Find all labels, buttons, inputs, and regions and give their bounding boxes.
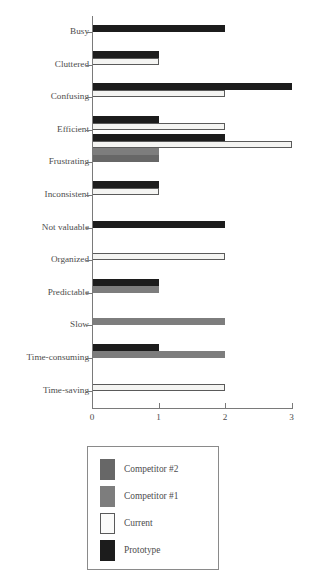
bar-comp1 [92,318,225,325]
legend-label: Competitor #2 [124,464,178,474]
bar-comp1 [92,148,159,155]
bar-current [92,90,225,97]
bar-current [92,141,292,148]
category-label: Organized [3,254,89,264]
x-tick-label: 1 [149,412,169,422]
legend-swatch [100,540,115,561]
plot-area: BusyClutteredConfusingEfficientFrustrati… [0,0,311,430]
x-tick-mark [159,403,160,409]
bar-comp1 [92,286,159,293]
bar-prototype [92,25,225,32]
category-label: Cluttered [3,59,89,69]
bar-comp1 [92,351,225,358]
x-tick-label: 2 [215,412,235,422]
legend-item: Current [100,512,153,534]
x-tick-label: 0 [82,412,102,422]
bar-comp2 [92,155,159,162]
chart-legend: Competitor #2Competitor #1CurrentPrototy… [87,446,219,570]
bar-current [92,58,159,65]
x-axis-line [92,408,292,409]
x-tick-label: 3 [282,412,302,422]
category-label: Not valuable [3,222,89,232]
category-label: Inconsistent [3,189,89,199]
x-tick-mark [292,403,293,409]
category-label: Busy [3,26,89,36]
legend-swatch [100,513,115,534]
legend-label: Current [124,518,153,528]
bar-prototype [92,134,225,141]
bar-chart-figure: BusyClutteredConfusingEfficientFrustrati… [0,0,311,587]
category-label: Efficient [3,124,89,134]
legend-swatch [100,459,115,480]
legend-swatch [100,486,115,507]
bar-prototype [92,181,159,188]
bar-prototype [92,51,159,58]
bar-prototype [92,344,159,351]
bar-prototype [92,221,225,228]
bar-prototype [92,83,292,90]
x-tick-mark [92,403,93,409]
bar-prototype [92,116,159,123]
bar-current [92,188,159,195]
y-axis-line [92,16,93,408]
legend-item: Competitor #1 [100,485,178,507]
category-label: Time-saving [3,385,89,395]
category-label: Predictable [3,287,89,297]
legend-label: Competitor #1 [124,491,178,501]
category-label: Confusing [3,91,89,101]
bar-current [92,384,225,391]
bar-current [92,253,225,260]
legend-label: Prototype [124,545,160,555]
x-tick-mark [225,403,226,409]
category-label: Frustrating [3,156,89,166]
category-label: Time-consuming [3,352,89,362]
legend-item: Competitor #2 [100,458,178,480]
category-label: Slow [3,319,89,329]
legend-item: Prototype [100,539,160,561]
bar-prototype [92,279,159,286]
bar-current [92,123,225,130]
